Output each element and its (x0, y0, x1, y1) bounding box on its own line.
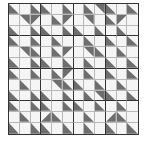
grid-cell[interactable] (74, 47, 85, 58)
grid-cell[interactable] (52, 91, 63, 102)
grid-cell[interactable] (63, 101, 74, 112)
grid-cell[interactable] (95, 4, 106, 15)
grid-cell[interactable] (20, 112, 31, 123)
grid-cell[interactable] (74, 69, 85, 80)
grid-cell[interactable] (117, 101, 128, 112)
grid-cell[interactable] (52, 123, 63, 134)
grid-cell[interactable] (31, 26, 42, 37)
grid-cell[interactable] (127, 69, 138, 80)
grid-cell[interactable] (84, 91, 95, 102)
grid-cell[interactable] (127, 123, 138, 134)
grid-cell[interactable] (52, 112, 63, 123)
grid-cell[interactable] (127, 26, 138, 37)
grid-cell[interactable] (20, 58, 31, 69)
grid-cell[interactable] (31, 123, 42, 134)
grid-cell[interactable] (106, 123, 117, 134)
grid-cell[interactable] (74, 91, 85, 102)
grid-cell[interactable] (84, 4, 95, 15)
grid-cell[interactable] (106, 101, 117, 112)
grid-cell[interactable] (84, 15, 95, 26)
grid-cell[interactable] (74, 123, 85, 134)
grid-cell[interactable] (117, 69, 128, 80)
grid-cell[interactable] (95, 36, 106, 47)
grid-cell[interactable] (9, 26, 20, 37)
grid-cell[interactable] (20, 15, 31, 26)
grid-cell[interactable] (74, 112, 85, 123)
grid-cell[interactable] (106, 58, 117, 69)
grid-cell[interactable] (20, 123, 31, 134)
grid-cell[interactable] (63, 112, 74, 123)
grid-cell[interactable] (52, 15, 63, 26)
grid-cell[interactable] (117, 123, 128, 134)
grid-cell[interactable] (84, 36, 95, 47)
grid-cell[interactable] (63, 58, 74, 69)
grid-cell[interactable] (127, 58, 138, 69)
grid-cell[interactable] (41, 91, 52, 102)
grid-cell[interactable] (9, 91, 20, 102)
grid-cell[interactable] (127, 15, 138, 26)
grid-cell[interactable] (63, 15, 74, 26)
grid-cell[interactable] (117, 80, 128, 91)
grid-cell[interactable] (74, 80, 85, 91)
grid-cell[interactable] (20, 47, 31, 58)
grid-cell[interactable] (106, 91, 117, 102)
grid-cell[interactable] (31, 80, 42, 91)
grid-cell[interactable] (84, 112, 95, 123)
grid-cell[interactable] (127, 47, 138, 58)
grid-cell[interactable] (52, 101, 63, 112)
grid-cell[interactable] (117, 58, 128, 69)
grid-cell[interactable] (106, 4, 117, 15)
grid-cell[interactable] (74, 58, 85, 69)
grid-cell[interactable] (41, 26, 52, 37)
grid-cell[interactable] (41, 47, 52, 58)
grid-cell[interactable] (31, 58, 42, 69)
grid-cell[interactable] (117, 47, 128, 58)
grid-cell[interactable] (41, 69, 52, 80)
grid-cell[interactable] (84, 123, 95, 134)
grid-cell[interactable] (31, 112, 42, 123)
grid-cell[interactable] (20, 26, 31, 37)
grid-cell[interactable] (117, 36, 128, 47)
grid-cell[interactable] (84, 101, 95, 112)
grid-cell[interactable] (95, 123, 106, 134)
grid-cell[interactable] (41, 123, 52, 134)
grid-cell[interactable] (41, 112, 52, 123)
grid-cell[interactable] (84, 69, 95, 80)
grid-cell[interactable] (95, 58, 106, 69)
grid-cell[interactable] (31, 47, 42, 58)
grid-cell[interactable] (106, 80, 117, 91)
grid-cell[interactable] (20, 4, 31, 15)
grid-cell[interactable] (41, 36, 52, 47)
grid-cell[interactable] (95, 91, 106, 102)
grid-cell[interactable] (63, 47, 74, 58)
grid-cell[interactable] (106, 69, 117, 80)
grid-cell[interactable] (52, 26, 63, 37)
grid-cell[interactable] (106, 26, 117, 37)
grid-cell[interactable] (9, 4, 20, 15)
grid-cell[interactable] (9, 80, 20, 91)
grid-cell[interactable] (20, 36, 31, 47)
grid-cell[interactable] (52, 47, 63, 58)
grid-cell[interactable] (84, 80, 95, 91)
grid-cell[interactable] (41, 4, 52, 15)
grid-cell[interactable] (52, 58, 63, 69)
grid-cell[interactable] (63, 91, 74, 102)
grid-cell[interactable] (31, 36, 42, 47)
grid-cell[interactable] (117, 4, 128, 15)
grid-cell[interactable] (63, 123, 74, 134)
grid-cell[interactable] (31, 15, 42, 26)
grid-cell[interactable] (9, 36, 20, 47)
grid-cell[interactable] (84, 26, 95, 37)
grid-cell[interactable] (127, 112, 138, 123)
grid-cell[interactable] (9, 101, 20, 112)
grid-cell[interactable] (63, 4, 74, 15)
grid-cell[interactable] (52, 36, 63, 47)
grid-cell[interactable] (95, 112, 106, 123)
grid-cell[interactable] (63, 80, 74, 91)
grid-cell[interactable] (127, 4, 138, 15)
grid-cell[interactable] (41, 15, 52, 26)
grid-cell[interactable] (20, 91, 31, 102)
grid-cell[interactable] (9, 123, 20, 134)
grid-cell[interactable] (9, 112, 20, 123)
grid-cell[interactable] (117, 26, 128, 37)
